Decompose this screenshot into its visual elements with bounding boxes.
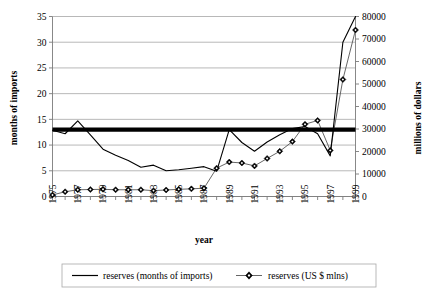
left-tick-label: 15 (37, 115, 47, 125)
chart-container: 05101520253035 0100002000030000400005000… (0, 0, 434, 299)
x-axis-title: year (195, 235, 214, 245)
chart-legend: reserves (months of imports) reserves (U… (62, 264, 376, 287)
left-tick-label: 10 (37, 140, 47, 150)
x-tick-label: 1995 (300, 184, 310, 203)
x-tick-label: 1999 (351, 184, 361, 203)
x-tick-label: 1983 (149, 184, 159, 203)
right-tick-label: 20000 (362, 147, 386, 157)
left-tick-label: 0 (42, 192, 47, 202)
right-axis-tick-labels: 0100002000030000400005000060000700008000… (362, 12, 386, 202)
x-tick-label: 1989 (225, 184, 235, 203)
right-tick-label: 40000 (362, 102, 386, 112)
right-tick-label: 0 (362, 192, 367, 202)
left-axis-title: months of imports (9, 70, 19, 145)
right-axis-title: millions of dollars (413, 81, 423, 154)
left-tick-label: 5 (42, 166, 47, 176)
right-tick-label: 30000 (362, 124, 386, 134)
legend-label-reserves-months: reserves (months of imports) (103, 271, 213, 282)
x-tick-label: 1991 (250, 184, 260, 203)
left-tick-label: 20 (37, 89, 47, 99)
left-tick-label: 30 (37, 38, 47, 48)
x-tick-label: 1997 (326, 184, 336, 203)
legend-label-reserves-usd: reserves (US $ mlns) (268, 271, 348, 282)
left-tick-label: 35 (37, 12, 47, 22)
right-tick-label: 10000 (362, 169, 386, 179)
right-tick-label: 50000 (362, 79, 386, 89)
line-chart-figure: 05101520253035 0100002000030000400005000… (0, 0, 434, 299)
right-tick-label: 70000 (362, 34, 386, 44)
x-tick-label: 1993 (275, 184, 285, 203)
right-tick-label: 80000 (362, 12, 386, 22)
left-tick-label: 25 (37, 63, 47, 73)
right-tick-label: 60000 (362, 57, 386, 67)
